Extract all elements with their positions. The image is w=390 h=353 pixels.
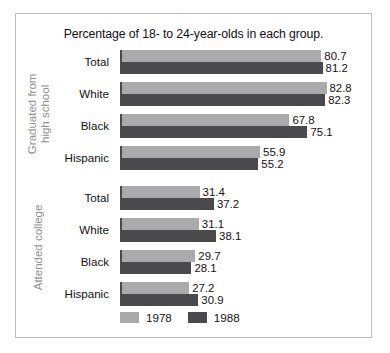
category-label-black: Black [56,250,115,274]
bar-value-1988: 55.2 [258,158,283,170]
bar-value-1978: 31.1 [199,218,224,230]
bar-line-1988: 28.1 [122,262,369,274]
bar-group-hispanic: 55.9 55.2 [120,146,369,170]
legend-label-1978: 1978 [146,311,172,324]
bar-value-1978: 82.8 [327,82,352,94]
bar-value-1988: 30.9 [198,294,223,306]
bar-value-1978: 80.7 [321,50,346,62]
bar-value-1978: 31.4 [200,186,225,198]
bar-line-1978: 31.1 [122,218,369,230]
table-row: Total 80.7 81.2 [56,50,371,74]
bar-1988 [122,294,198,306]
bar-line-1978: 80.7 [122,50,369,62]
bar-group-black: 67.8 75.1 [120,114,369,138]
chart-legend: 1978 1988 [120,311,240,324]
bar-group-total: 31.4 37.2 [120,186,369,210]
panel-rows-attended-college: Total 31.4 37.2 White [56,186,371,308]
panel-label-line2: high school [39,74,52,155]
bar-line-1988: 82.3 [122,94,369,106]
bar-line-1988: 75.1 [122,126,369,138]
bar-value-1988: 37.2 [214,198,239,210]
bar-line-1988: 81.2 [122,62,369,74]
category-label-hispanic: Hispanic [56,282,115,306]
bar-group-black: 29.7 28.1 [120,250,369,274]
bar-line-1988: 30.9 [122,294,369,306]
bar-1988 [122,262,191,274]
table-row: Total 31.4 37.2 [56,186,371,210]
category-label-total: Total [56,50,115,74]
category-label-total: Total [56,186,115,210]
panel-label-line1: Attended college [33,204,46,290]
category-label-white: White [56,218,115,242]
table-row: Hispanic 55.9 55.2 [56,146,371,170]
legend-swatch-1988 [188,312,207,323]
panel-attended-college: Attended college Total 31.4 37.2 [16,186,371,308]
bar-group-white: 31.1 38.1 [120,218,369,242]
bar-value-1988: 75.1 [307,126,332,138]
bar-line-1978: 29.7 [122,250,369,262]
table-row: White 82.8 82.3 [56,82,371,106]
bar-line-1978: 27.2 [122,282,369,294]
table-row: Hispanic 27.2 30.9 [56,282,371,306]
bar-value-1988: 28.1 [191,262,216,274]
bar-value-1978: 67.8 [289,114,314,126]
bar-1978 [122,186,200,198]
bar-value-1978: 27.2 [189,282,214,294]
bar-1988 [122,94,325,106]
bar-value-1978: 29.7 [195,250,220,262]
bar-1988 [122,158,258,170]
bar-1978 [122,50,321,62]
bar-1988 [122,126,307,138]
panel-graduated-high-school: Graduated from high school Total 80.7 81… [16,50,371,178]
table-row: Black 67.8 75.1 [56,114,371,138]
bar-line-1988: 55.2 [122,158,369,170]
chart-title: Percentage of 18- to 24-year-olds in eac… [16,27,371,41]
bar-group-white: 82.8 82.3 [120,82,369,106]
table-row: White 31.1 38.1 [56,218,371,242]
chart-figure: Percentage of 18- to 24-year-olds in eac… [15,13,372,338]
legend-swatch-1978 [120,312,139,323]
table-row: Black 29.7 28.1 [56,250,371,274]
bar-1988 [122,230,216,242]
bar-1978 [122,282,189,294]
bar-1978 [122,146,260,158]
panel-label-attended-college: Attended college [22,186,56,308]
bar-group-total: 80.7 81.2 [120,50,369,74]
legend-label-1988: 1988 [214,311,240,324]
bar-line-1978: 67.8 [122,114,369,126]
category-label-black: Black [56,114,115,138]
bar-value-1988: 81.2 [323,62,348,74]
category-label-white: White [56,82,115,106]
legend-item-1978: 1978 [120,311,172,324]
panel-label-graduated-high-school: Graduated from high school [22,50,56,178]
category-label-hispanic: Hispanic [56,146,115,170]
bar-1978 [122,218,199,230]
bar-1988 [122,62,323,74]
bar-line-1978: 31.4 [122,186,369,198]
bar-value-1978: 55.9 [260,146,285,158]
bar-line-1978: 55.9 [122,146,369,158]
bar-line-1988: 37.2 [122,198,369,210]
legend-item-1988: 1988 [188,311,240,324]
bar-line-1988: 38.1 [122,230,369,242]
bar-value-1988: 82.3 [325,94,350,106]
panel-rows-graduated-high-school: Total 80.7 81.2 White [56,50,371,178]
bar-value-1988: 38.1 [216,230,241,242]
bar-line-1978: 82.8 [122,82,369,94]
bar-group-hispanic: 27.2 30.9 [120,282,369,306]
bar-1978 [122,82,327,94]
panel-label-line1: Graduated from [26,74,39,155]
bar-1978 [122,114,289,126]
bar-1978 [122,250,195,262]
bar-1988 [122,198,214,210]
